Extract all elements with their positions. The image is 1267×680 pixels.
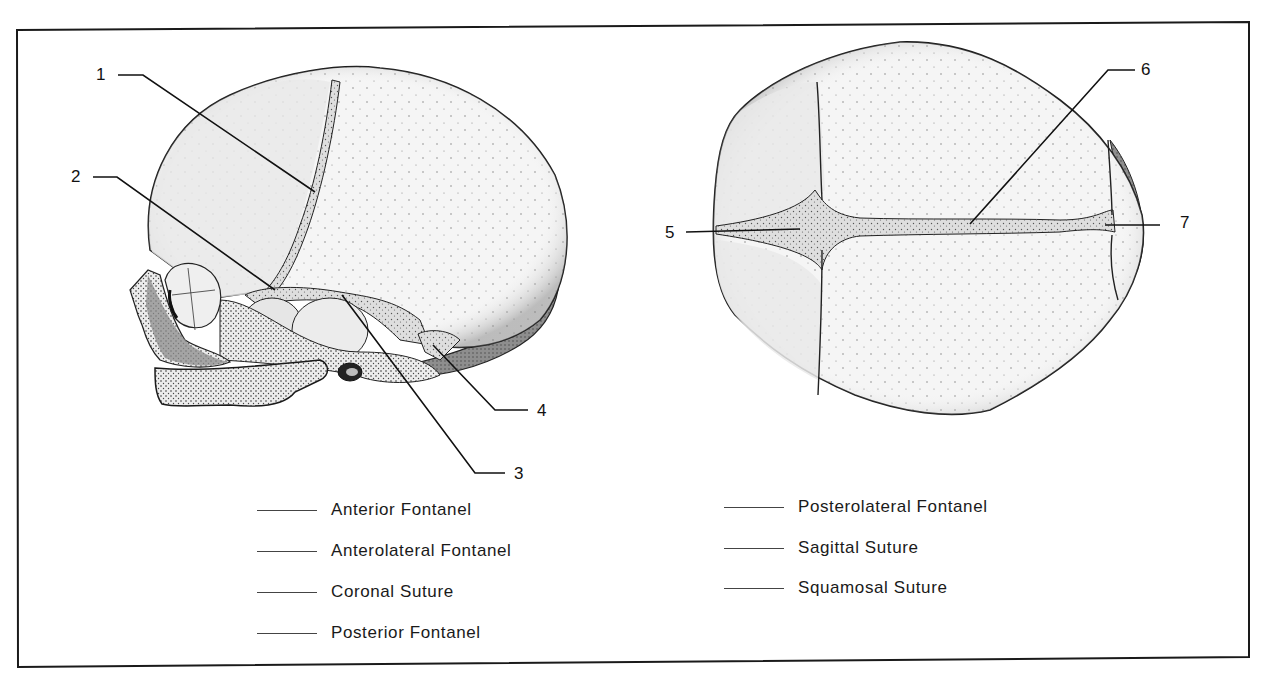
key-label: Sagittal Suture — [798, 538, 919, 558]
key-item-posterior-fontanel: Posterior Fontanel — [257, 623, 481, 643]
superior-skull-illustration — [713, 42, 1143, 414]
callout-3: 3 — [514, 465, 523, 482]
callout-4: 4 — [537, 402, 546, 419]
callout-6: 6 — [1141, 61, 1150, 78]
key-label: Posterior Fontanel — [331, 623, 481, 643]
answer-blank[interactable] — [257, 509, 317, 511]
key-item-anterolateral-fontanel: Anterolateral Fontanel — [257, 541, 511, 561]
answer-blank[interactable] — [257, 550, 317, 552]
key-label: Posterolateral Fontanel — [798, 497, 988, 517]
answer-blank[interactable] — [724, 506, 784, 508]
key-item-squamosal-suture: Squamosal Suture — [724, 578, 947, 598]
callout-5: 5 — [665, 224, 674, 241]
answer-blank[interactable] — [724, 587, 784, 589]
key-label: Coronal Suture — [331, 582, 454, 602]
answer-blank[interactable] — [724, 547, 784, 549]
diagram-canvas — [0, 0, 1267, 680]
key-label: Squamosal Suture — [798, 578, 947, 598]
callout-2: 2 — [71, 168, 80, 185]
key-label: Anterolateral Fontanel — [331, 541, 511, 561]
key-item-posterolateral-fontanel: Posterolateral Fontanel — [724, 497, 988, 517]
callout-1: 1 — [96, 66, 105, 83]
answer-blank[interactable] — [257, 591, 317, 593]
lateral-skull-illustration — [130, 67, 567, 406]
key-label: Anterior Fontanel — [331, 500, 472, 520]
key-item-coronal-suture: Coronal Suture — [257, 582, 454, 602]
answer-blank[interactable] — [257, 632, 317, 634]
key-item-sagittal-suture: Sagittal Suture — [724, 538, 919, 558]
key-item-anterior-fontanel: Anterior Fontanel — [257, 500, 472, 520]
callout-7: 7 — [1180, 214, 1189, 231]
figure-frame — [0, 0, 1267, 680]
